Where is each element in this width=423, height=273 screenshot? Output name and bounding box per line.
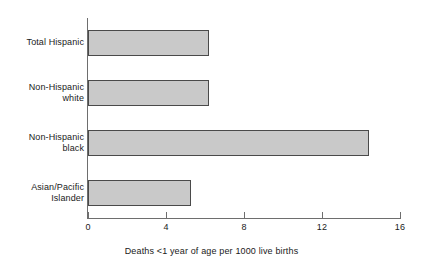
- x-axis-tick-label: 4: [146, 222, 186, 232]
- bar: [88, 130, 369, 156]
- category-axis-labels: Total Hispanic Non-Hispanic white Non-Hi…: [0, 0, 84, 219]
- bar: [88, 80, 209, 106]
- x-axis-tick-label: 16: [380, 222, 420, 232]
- category-label-non-hispanic-white: Non-Hispanic white: [2, 82, 84, 105]
- category-label-line: Total Hispanic: [2, 37, 84, 49]
- category-label-non-hispanic-black: Non-Hispanic black: [2, 132, 84, 155]
- x-axis-tick-label: 12: [302, 222, 342, 232]
- x-axis-tick: [244, 212, 245, 219]
- category-label-line: Islander: [2, 193, 84, 205]
- category-label-line: Non-Hispanic: [2, 132, 84, 144]
- x-axis-tick: [88, 212, 89, 219]
- bar: [88, 30, 209, 56]
- category-label-line: white: [2, 93, 84, 105]
- x-axis-tick: [166, 212, 167, 219]
- x-axis-title: Deaths <1 year of age per 1000 live birt…: [0, 246, 423, 256]
- category-label-asian-pacific-islander: Asian/Pacific Islander: [2, 182, 84, 205]
- category-label-line: black: [2, 143, 84, 155]
- category-label-total-hispanic: Total Hispanic: [2, 37, 84, 49]
- bar-chart-figure: Total Hispanic Non-Hispanic white Non-Hi…: [0, 0, 423, 273]
- x-axis-tick-label: 8: [224, 222, 264, 232]
- category-label-line: Non-Hispanic: [2, 82, 84, 94]
- category-label-line: Asian/Pacific: [2, 182, 84, 194]
- bar: [88, 180, 191, 206]
- x-axis-tick: [322, 212, 323, 219]
- x-axis-tick: [400, 212, 401, 219]
- x-axis-tick-label: 0: [68, 222, 108, 232]
